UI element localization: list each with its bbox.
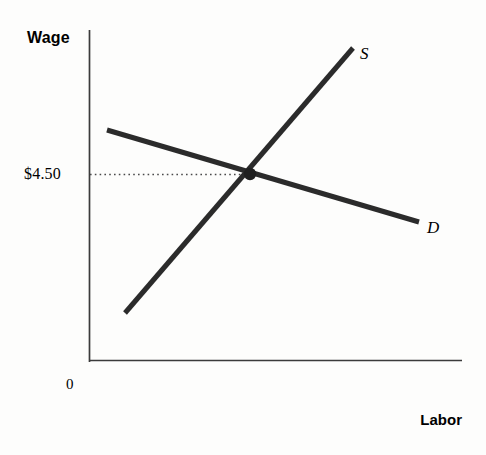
demand-curve-label: D bbox=[427, 218, 439, 238]
x-axis-title-line-1: Labor bbox=[230, 410, 462, 429]
supply-curve bbox=[125, 48, 353, 313]
equilibrium-point-marker bbox=[244, 168, 256, 180]
supply-demand-figure: Wage $4.50 0 Labor (number of workers pe… bbox=[0, 0, 486, 455]
x-axis-title: Labor (number of workers per year) bbox=[230, 372, 462, 455]
y-axis-title: Wage bbox=[27, 29, 70, 48]
origin-label: 0 bbox=[66, 376, 74, 394]
supply-curve-label: S bbox=[360, 44, 369, 64]
demand-curve bbox=[107, 130, 419, 222]
y-axis-tick-label-450: $4.50 bbox=[24, 165, 61, 184]
